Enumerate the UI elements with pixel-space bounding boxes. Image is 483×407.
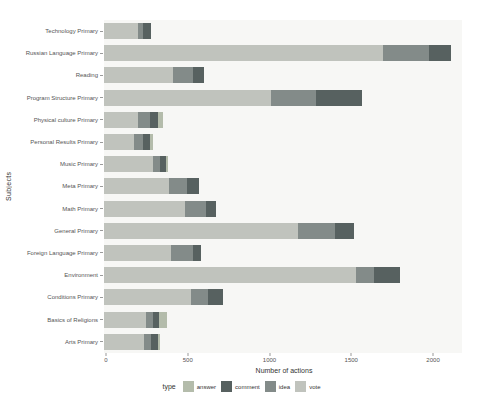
- bar-segment-comment: [206, 201, 216, 217]
- bar-row: Personal Results Primary: [0, 131, 483, 153]
- bar-segment-vote: [104, 201, 185, 217]
- bar-segment-answer: [166, 156, 168, 172]
- bar-segment-vote: [104, 67, 173, 83]
- bar-row: Meta Primary: [0, 175, 483, 197]
- legend-title: type: [163, 383, 176, 390]
- bar-track: [104, 45, 460, 61]
- y-axis-label: Meta Primary: [0, 183, 98, 189]
- bar-segment-vote: [104, 156, 153, 172]
- bar-track: [104, 23, 460, 39]
- y-axis-label: Personal Results Primary: [0, 139, 98, 145]
- bar-segment-comment: [193, 67, 204, 83]
- bar-segment-vote: [104, 112, 138, 128]
- bar-row: Program Structure Primary: [0, 87, 483, 109]
- bar-track: [104, 90, 460, 106]
- bar-row: General Primary: [0, 220, 483, 242]
- y-axis-label: General Primary: [0, 228, 98, 234]
- y-tick-mark: [100, 97, 103, 98]
- bar-segment-vote: [104, 312, 146, 328]
- y-axis-label: Music Primary: [0, 161, 98, 167]
- bar-row: Music Primary: [0, 153, 483, 175]
- legend-item-comment: comment: [221, 381, 260, 392]
- bar-segment-idea: [356, 267, 374, 283]
- legend-swatch-vote: [295, 381, 306, 392]
- bar-row: Math Primary: [0, 198, 483, 220]
- bar-segment-vote: [104, 23, 138, 39]
- x-tick-label: 1500: [345, 357, 358, 363]
- bar-segment-idea: [191, 289, 207, 305]
- y-axis-label: Technology Primary: [0, 28, 98, 34]
- bar-track: [104, 112, 460, 128]
- y-axis-label: Environment: [0, 272, 98, 278]
- x-tick-mark: [433, 353, 434, 356]
- bar-segment-comment: [374, 267, 400, 283]
- x-tick-label: 1000: [263, 357, 276, 363]
- y-tick-mark: [100, 341, 103, 342]
- y-tick-mark: [100, 275, 103, 276]
- bar-segment-idea: [185, 201, 206, 217]
- y-tick-mark: [100, 119, 103, 120]
- bar-track: [104, 245, 460, 261]
- bar-segment-vote: [104, 90, 271, 106]
- legend-swatch-answer: [183, 381, 194, 392]
- y-tick-mark: [100, 252, 103, 253]
- bar-track: [104, 289, 460, 305]
- y-axis-label: Basics of Religions: [0, 317, 98, 323]
- bar-segment-idea: [144, 334, 151, 350]
- bar-segment-idea: [173, 67, 193, 83]
- x-tick-label: 500: [183, 357, 193, 363]
- y-axis-label: Physical culture Primary: [0, 117, 98, 123]
- bar-segment-comment: [150, 112, 158, 128]
- bar-segment-idea: [271, 90, 316, 106]
- x-tick-mark: [187, 353, 188, 356]
- bar-track: [104, 67, 460, 83]
- legend-label-idea: idea: [279, 384, 290, 390]
- y-axis-label: Arts Primary: [0, 339, 98, 345]
- bar-segment-answer: [159, 312, 167, 328]
- bar-segment-comment: [187, 178, 198, 194]
- y-axis-label: Russian Language Primary: [0, 50, 98, 56]
- bar-segment-comment: [316, 90, 363, 106]
- y-axis-label: Reading: [0, 72, 98, 78]
- y-tick-mark: [100, 164, 103, 165]
- stacked-bar-chart-figure: Subjects Technology PrimaryRussian Langu…: [0, 0, 483, 407]
- bar-segment-idea: [169, 178, 187, 194]
- y-tick-mark: [100, 186, 103, 187]
- bar-segment-comment: [335, 223, 355, 239]
- bar-segment-answer: [158, 334, 160, 350]
- bar-track: [104, 201, 460, 217]
- legend-swatch-idea: [265, 381, 276, 392]
- bar-segment-comment: [143, 23, 150, 39]
- y-axis-label: Foreign Language Primary: [0, 250, 98, 256]
- bar-row: Arts Primary: [0, 331, 483, 353]
- bar-segment-idea: [138, 112, 149, 128]
- bar-segment-vote: [104, 334, 144, 350]
- bar-segment-idea: [298, 223, 335, 239]
- bar-segment-vote: [104, 245, 171, 261]
- bar-row: Reading: [0, 64, 483, 86]
- bar-segment-answer: [158, 112, 163, 128]
- legend-label-answer: answer: [197, 384, 216, 390]
- bar-segment-idea: [153, 156, 160, 172]
- y-tick-mark: [100, 31, 103, 32]
- bar-row: Environment: [0, 264, 483, 286]
- y-axis-label: Math Primary: [0, 206, 98, 212]
- bar-segment-comment: [208, 289, 223, 305]
- bar-track: [104, 267, 460, 283]
- bar-segment-vote: [104, 178, 169, 194]
- x-tick-label: 2000: [426, 357, 439, 363]
- bar-row: Physical culture Primary: [0, 109, 483, 131]
- x-tick-label: 0: [104, 357, 107, 363]
- y-axis-label: Conditions Primary: [0, 294, 98, 300]
- bar-row: Foreign Language Primary: [0, 242, 483, 264]
- bar-segment-vote: [104, 267, 356, 283]
- bar-track: [104, 178, 460, 194]
- x-tick-mark: [351, 353, 352, 356]
- plot-rows: Technology PrimaryRussian Language Prima…: [0, 20, 483, 353]
- bar-segment-idea: [383, 45, 430, 61]
- legend-label-comment: comment: [235, 384, 260, 390]
- y-tick-mark: [100, 53, 103, 54]
- legend-item-idea: idea: [265, 381, 290, 392]
- legend-item-vote: vote: [295, 381, 320, 392]
- bar-track: [104, 223, 460, 239]
